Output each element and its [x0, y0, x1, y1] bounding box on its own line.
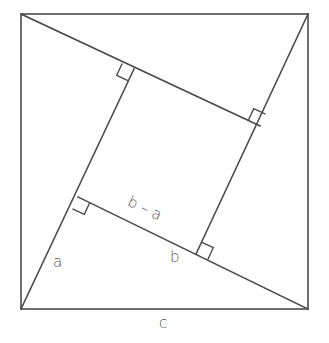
label-a: a — [53, 253, 62, 271]
outer-square — [21, 14, 308, 309]
pythagorean-diagram: b – a a b c — [0, 0, 329, 343]
label-b-minus-a: b – a — [125, 192, 165, 224]
leg-line-bottom — [78, 197, 308, 309]
label-b: b — [170, 248, 180, 266]
right-angle-marker-top — [117, 64, 129, 81]
label-c: c — [159, 314, 167, 332]
leg-line-left — [21, 69, 134, 309]
leg-line-top — [21, 14, 260, 126]
leg-line-right — [196, 14, 308, 254]
right-angle-marker-bottom — [202, 242, 214, 259]
right-angle-marker-left — [73, 203, 90, 215]
